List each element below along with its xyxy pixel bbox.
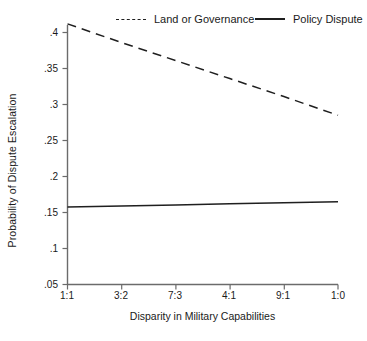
axis-lines: [67, 25, 338, 285]
series-line-land-or-governance: [68, 24, 339, 115]
y-axis-ticks: [63, 33, 68, 285]
plot-area: [0, 0, 367, 341]
x-axis-ticks: [68, 285, 339, 290]
series-line-policy-dispute: [68, 202, 339, 207]
chart-figure: Land or Governance Policy Dispute Probab…: [0, 0, 367, 341]
